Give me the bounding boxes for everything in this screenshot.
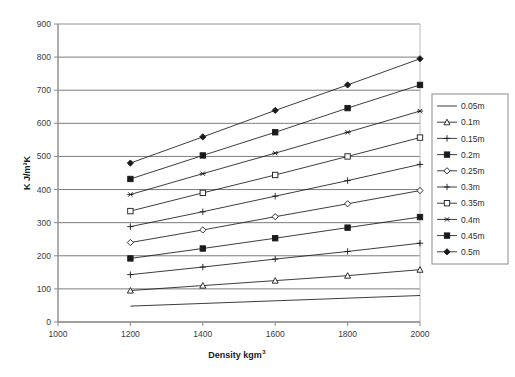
x-axis-title: Density kgm xyxy=(208,350,262,360)
data-point-marker xyxy=(444,233,449,238)
legend-item-label: 0.05m xyxy=(461,101,485,111)
chart-container: 0100200300400500600700800900 10001200140… xyxy=(0,0,515,377)
legend-item-label: 0.35m xyxy=(461,198,485,208)
data-point-marker xyxy=(128,208,133,213)
y-tick-label: 800 xyxy=(37,52,51,62)
chart-legend[interactable]: 0.05m0.1m0.15m0.2m0.25m0.3m0.35m0.4m0.45… xyxy=(432,94,508,264)
x-tick-label: 1600 xyxy=(266,329,285,339)
line-chart: 0100200300400500600700800900 10001200140… xyxy=(0,0,515,377)
data-point-marker xyxy=(273,236,278,241)
x-tick-label: 1400 xyxy=(193,329,212,339)
y-tick-label: 100 xyxy=(37,284,51,294)
data-point-marker xyxy=(345,154,350,159)
data-point-marker xyxy=(128,256,133,261)
data-point-marker xyxy=(444,201,449,206)
data-point-marker xyxy=(200,190,205,195)
data-point-marker xyxy=(273,172,278,177)
y-tick-label: 600 xyxy=(37,118,51,128)
data-point-marker xyxy=(345,105,350,110)
data-point-marker xyxy=(200,153,205,158)
y-tick-label: 700 xyxy=(37,85,51,95)
data-point-marker xyxy=(200,246,205,251)
y-tick-label: 500 xyxy=(37,151,51,161)
legend-item-label: 0.45m xyxy=(461,231,485,241)
x-tick-label: 2000 xyxy=(411,329,430,339)
data-point-marker xyxy=(444,152,449,157)
data-point-marker xyxy=(345,225,350,230)
x-tick-label: 1000 xyxy=(49,329,68,339)
data-point-marker xyxy=(417,135,422,140)
data-point-marker xyxy=(417,82,422,87)
data-point-marker xyxy=(273,130,278,135)
data-point-marker xyxy=(128,176,133,181)
legend-item-label: 0.5m xyxy=(461,247,480,257)
legend-item-label: 0.3m xyxy=(461,182,480,192)
legend-item-label: 0.15m xyxy=(461,134,485,144)
data-point-marker xyxy=(417,214,422,219)
y-tick-label: 300 xyxy=(37,218,51,228)
legend-item-label: 0.1m xyxy=(461,117,480,127)
legend-item-label: 0.25m xyxy=(461,166,485,176)
y-tick-label: 0 xyxy=(46,317,51,327)
y-tick-label: 200 xyxy=(37,251,51,261)
legend-item-label: 0.4m xyxy=(461,215,480,225)
y-axis-title: K J/m³K xyxy=(22,156,32,191)
y-tick-label: 900 xyxy=(37,19,51,29)
legend-item-label: 0.2m xyxy=(461,150,480,160)
x-tick-label: 1800 xyxy=(338,329,357,339)
x-tick-label: 1200 xyxy=(121,329,140,339)
y-tick-label: 400 xyxy=(37,185,51,195)
